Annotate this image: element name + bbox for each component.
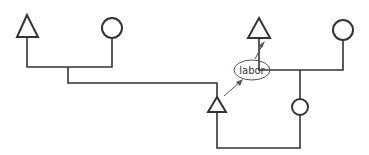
marriage-line-left bbox=[27, 37, 112, 67]
female-child-circle-icon bbox=[292, 99, 308, 115]
labor-label: labor bbox=[239, 65, 265, 76]
female-left-circle-icon bbox=[102, 18, 122, 38]
female-right-circle-icon bbox=[333, 20, 353, 40]
kinship-diagram: labor bbox=[0, 0, 369, 155]
marriage-line-children bbox=[217, 112, 300, 148]
descent-line-left bbox=[68, 67, 217, 97]
male-right-triangle-icon bbox=[248, 18, 270, 38]
labor-arrow-in bbox=[224, 82, 240, 96]
male-left-triangle-icon bbox=[17, 15, 38, 37]
marriage-line-right bbox=[259, 38, 343, 70]
male-child-triangle-icon bbox=[208, 97, 226, 112]
